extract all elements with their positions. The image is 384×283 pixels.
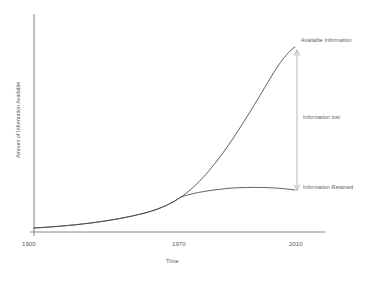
series-line-information-retained xyxy=(34,187,295,228)
series-label-available-information: Available Information xyxy=(301,38,351,44)
series-line-available-information xyxy=(34,47,295,228)
x-axis-tick-label-start: 1900 xyxy=(22,241,36,248)
x-axis-tick-label-middle: 1970 xyxy=(172,241,186,248)
series-label-information-retained: Information Retained xyxy=(303,185,353,191)
x-axis-title: Time xyxy=(166,258,179,264)
chart-container: Available Information Information lost I… xyxy=(0,0,384,283)
y-axis-title: Amount of Information Available xyxy=(16,70,22,170)
annotation-label-information-lost: Information lost xyxy=(303,115,340,121)
x-axis-tick-label-end: 2010 xyxy=(289,241,303,248)
